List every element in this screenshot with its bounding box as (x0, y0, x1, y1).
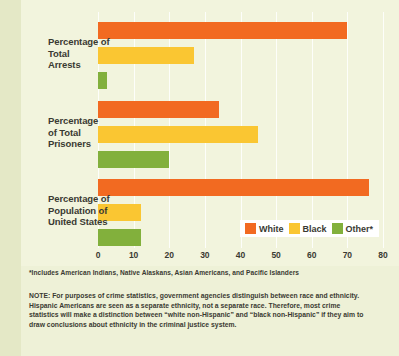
legend-swatch-white-icon (245, 223, 256, 234)
x-axis-tick-label: 10 (129, 250, 138, 260)
gridline (312, 12, 313, 248)
x-axis-tick-label: 80 (378, 250, 387, 260)
category-label-line: Percentage of (48, 36, 124, 48)
chart-panel: Percentage of Total Arrests Percentage o… (21, 0, 399, 266)
legend-label-white: White (259, 224, 284, 234)
category-label-line: Percentage of (48, 193, 124, 205)
category-label-line: United States (48, 216, 124, 228)
x-axis: 01020304050607080 (98, 250, 383, 264)
legend-swatch-other-icon (332, 223, 343, 234)
legend-item-white: White (245, 223, 284, 234)
legend-item-black: Black (289, 223, 327, 234)
category-label-line: Total (48, 48, 124, 60)
category-label-line: Prisoners (48, 138, 124, 150)
gridline (276, 12, 277, 248)
legend-item-other: Other* (332, 223, 374, 234)
category-label-population: Percentage of Population of United State… (48, 193, 124, 228)
chart-legend: White Black Other* (240, 220, 379, 237)
plot-area (98, 12, 383, 248)
bar-white (98, 179, 369, 196)
left-margin-strip (0, 0, 21, 356)
category-label-line: Percentage (48, 115, 124, 127)
category-label-line: of Total (48, 127, 124, 139)
x-axis-tick-label: 50 (271, 250, 280, 260)
bar-other (98, 151, 169, 168)
category-label-line: Arrests (48, 59, 124, 71)
bar-other (98, 229, 141, 246)
category-label-arrests: Percentage of Total Arrests (48, 36, 124, 71)
x-axis-tick-label: 40 (236, 250, 245, 260)
category-label-prisoners: Percentage of Total Prisoners (48, 115, 124, 150)
x-axis-tick-label: 0 (96, 250, 101, 260)
category-label-line: Population of (48, 205, 124, 217)
chart-page: Percentage of Total Arrests Percentage o… (0, 0, 399, 356)
gridline (383, 12, 384, 248)
x-axis-tick-label: 70 (343, 250, 352, 260)
footnote-text: *Includes American Indians, Native Alask… (29, 269, 299, 276)
bar-white (98, 22, 347, 39)
bar-other (98, 72, 107, 89)
note-text: NOTE: For purposes of crime statistics, … (29, 291, 369, 329)
legend-swatch-black-icon (289, 223, 300, 234)
gridline (347, 12, 348, 248)
x-axis-tick-label: 30 (200, 250, 209, 260)
legend-label-other: Other* (346, 224, 374, 234)
legend-label-black: Black (303, 224, 327, 234)
x-axis-tick-label: 20 (165, 250, 174, 260)
x-axis-tick-label: 60 (307, 250, 316, 260)
